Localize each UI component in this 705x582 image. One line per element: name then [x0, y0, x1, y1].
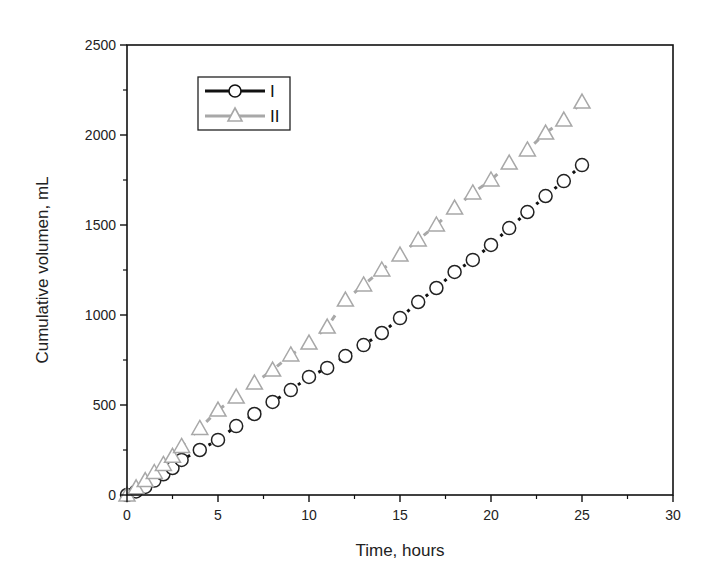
triangle-marker-icon — [192, 420, 208, 434]
circle-marker-icon — [212, 433, 225, 446]
circle-marker-icon — [430, 282, 443, 295]
triangle-marker-icon — [538, 125, 554, 139]
y-tick-label: 1000 — [85, 307, 116, 323]
legend-label-series-2: II — [270, 107, 279, 126]
x-tick-label: 20 — [483, 507, 499, 523]
triangle-marker-icon — [519, 142, 535, 156]
circle-marker-icon — [266, 395, 279, 408]
circle-marker-icon — [339, 350, 352, 363]
circle-marker-icon — [485, 238, 498, 251]
x-tick-label: 5 — [214, 507, 222, 523]
circle-marker-icon — [521, 206, 534, 219]
series-2 — [119, 94, 590, 501]
legend-circle-marker-icon — [229, 85, 241, 97]
triangle-marker-icon — [283, 347, 299, 361]
circle-marker-icon — [503, 222, 516, 235]
x-axis-title: Time, hours — [355, 541, 444, 560]
triangle-marker-icon — [574, 94, 590, 108]
y-tick-label: 2500 — [85, 37, 116, 53]
y-axis: 05001000150020002500 — [85, 37, 127, 503]
triangle-marker-icon — [428, 217, 444, 231]
x-tick-label: 0 — [123, 507, 131, 523]
y-tick-label: 0 — [108, 487, 116, 503]
x-axis: 051015202530 — [123, 495, 681, 523]
series-1 — [121, 159, 589, 502]
x-tick-label: 10 — [301, 507, 317, 523]
triangle-marker-icon — [374, 262, 390, 276]
y-tick-label: 1500 — [85, 217, 116, 233]
triangle-marker-icon — [210, 402, 226, 416]
y-tick-label: 2000 — [85, 127, 116, 143]
y-axis-title: Cumulative volumen, mL — [33, 176, 52, 363]
triangle-marker-icon — [392, 247, 408, 261]
circle-marker-icon — [321, 361, 334, 374]
circle-marker-icon — [412, 296, 425, 309]
circle-marker-icon — [375, 327, 388, 340]
circle-marker-icon — [248, 408, 261, 421]
circle-marker-icon — [193, 444, 206, 457]
triangle-marker-icon — [228, 389, 244, 403]
y-tick-label: 500 — [93, 397, 117, 413]
circle-marker-icon — [230, 420, 243, 433]
circle-marker-icon — [576, 159, 589, 172]
circle-marker-icon — [394, 312, 407, 325]
triangle-marker-icon — [501, 155, 517, 169]
x-tick-label: 30 — [665, 507, 681, 523]
triangle-marker-icon — [465, 185, 481, 199]
chart: 051015202530 05001000150020002500 Time, … — [0, 0, 705, 582]
circle-marker-icon — [357, 339, 370, 352]
series-line — [127, 102, 582, 495]
circle-marker-icon — [539, 190, 552, 203]
triangle-marker-icon — [246, 375, 262, 389]
triangle-marker-icon — [319, 319, 335, 333]
x-tick-label: 25 — [574, 507, 590, 523]
triangle-marker-icon — [337, 292, 353, 306]
circle-marker-icon — [284, 384, 297, 397]
circle-marker-icon — [303, 370, 316, 383]
triangle-marker-icon — [301, 335, 317, 349]
triangle-marker-icon — [174, 438, 190, 452]
triangle-marker-icon — [447, 200, 463, 214]
x-tick-label: 15 — [392, 507, 408, 523]
legend-label-series-1: I — [270, 82, 275, 101]
legend: I II — [198, 77, 290, 130]
triangle-marker-icon — [556, 112, 572, 126]
plot-area — [119, 94, 590, 501]
circle-marker-icon — [448, 265, 461, 278]
circle-marker-icon — [557, 175, 570, 188]
circle-marker-icon — [466, 253, 479, 266]
